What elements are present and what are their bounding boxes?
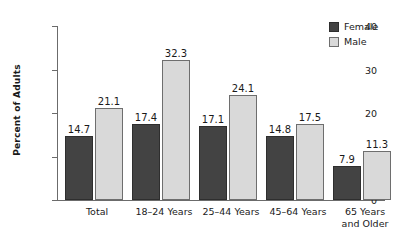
bar-value-male-total: 21.1 [98, 96, 120, 107]
bar-value-male-45-64: 17.5 [299, 112, 321, 123]
bar-group-18-24: 17.4 32.3 [132, 26, 192, 200]
y-axis-title: Percent of Adults [9, 50, 25, 170]
bar-male-18-24[interactable]: 32.3 [162, 60, 190, 201]
bar-female-18-24[interactable]: 17.4 [132, 124, 160, 200]
bar-male-65-plus[interactable]: 11.3 [363, 151, 391, 200]
bar-male-25-44[interactable]: 24.1 [229, 95, 257, 200]
bar-group-65-plus: 7.9 11.3 [333, 26, 393, 200]
y-axis-title-text: Percent of Adults [12, 64, 22, 156]
y-tick-20 [52, 113, 57, 114]
bar-value-male-25-44: 24.1 [232, 83, 254, 94]
bar-group-25-44: 17.1 24.1 [199, 26, 259, 200]
bar-group-total: 14.7 21.1 [65, 26, 125, 200]
plot-area: 0 10 20 30 40 14.7 21.1 17.4 32.3 [57, 26, 385, 201]
y-axis-line [57, 26, 58, 201]
x-axis-label-45-64: 45–64 Years [261, 206, 335, 218]
bar-male-total[interactable]: 21.1 [95, 108, 123, 200]
bar-group-45-64: 14.8 17.5 [266, 26, 326, 200]
y-tick-40 [52, 26, 57, 27]
x-axis-label-25-44: 25–44 Years [194, 206, 268, 218]
bar-male-45-64[interactable]: 17.5 [296, 124, 324, 200]
bar-female-25-44[interactable]: 17.1 [199, 126, 227, 200]
bar-value-female-total: 14.7 [68, 124, 90, 135]
bar-chart: Female Male Percent of Adults 0 10 20 30… [0, 0, 405, 241]
bar-female-total[interactable]: 14.7 [65, 136, 93, 200]
y-tick-0 [52, 200, 57, 201]
bar-value-male-65-plus: 11.3 [366, 139, 388, 150]
bar-value-female-65-plus: 7.9 [339, 154, 355, 165]
bar-value-female-18-24: 17.4 [135, 112, 157, 123]
bar-value-female-45-64: 14.8 [269, 124, 291, 135]
x-axis-label-18-24: 18–24 Years [127, 206, 201, 218]
y-tick-30 [52, 70, 57, 71]
bar-female-45-64[interactable]: 14.8 [266, 136, 294, 200]
y-tick-10 [52, 157, 57, 158]
x-axis-label-65-plus: 65 Years and Older [328, 206, 402, 230]
x-axis-line [57, 200, 385, 201]
bar-female-65-plus[interactable]: 7.9 [333, 166, 361, 200]
bar-value-female-25-44: 17.1 [202, 114, 224, 125]
bar-value-male-18-24: 32.3 [165, 48, 187, 59]
x-axis-label-total: Total [60, 206, 134, 218]
